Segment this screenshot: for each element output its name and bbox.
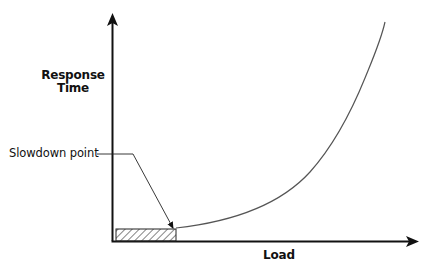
- y-axis-label: Response Time: [40, 69, 106, 95]
- y-axis-label-line2: Time: [40, 82, 106, 95]
- slowdown-point-label: Slowdown point: [9, 146, 99, 160]
- response-time-diagram: Response Time Load Slowdown point: [0, 0, 438, 271]
- diagram-graphic: [0, 0, 438, 271]
- slowdown-leader-line: [97, 154, 173, 228]
- slowdown-region: [116, 229, 176, 241]
- x-axis-label: Load: [259, 249, 299, 262]
- response-curve: [176, 22, 385, 228]
- y-axis: [107, 13, 118, 241]
